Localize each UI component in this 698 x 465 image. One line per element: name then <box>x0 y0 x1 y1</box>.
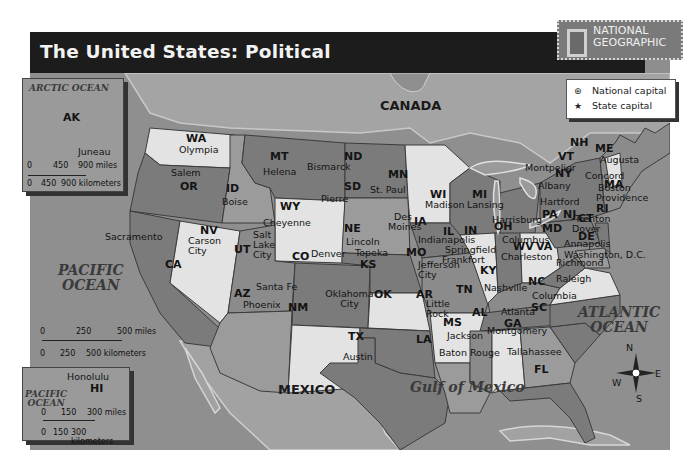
capital-label-boston: Boston <box>598 183 631 193</box>
capital-label-topeka: Topeka <box>355 248 388 258</box>
state-label-nm: NM <box>288 301 308 314</box>
capital-label-augusta: Augusta <box>600 155 639 165</box>
map-legend: ⊛National capital ★State capital <box>566 79 676 119</box>
atlantic-ocean-label: ATLANTICOCEAN <box>578 305 660 335</box>
pacific-ocean-label: PACIFICOCEAN <box>58 263 124 293</box>
state-label-tx: TX <box>348 330 364 343</box>
capital-label-olympia: Olympia <box>179 145 218 155</box>
capital-label-hartford: Hartford <box>540 197 580 207</box>
state-label-hi: HI <box>90 382 103 395</box>
state-label-ks: KS <box>360 258 376 271</box>
capital-label-indianapolis: Indianapolis <box>418 235 475 245</box>
gulf-of-mexico-label: Gulf of Mexico <box>410 380 525 395</box>
state-label-tn: TN <box>456 283 473 296</box>
capital-label-tallahassee: Tallahassee <box>507 347 562 357</box>
capital-label-columbia: Columbia <box>532 291 577 301</box>
compass-west: W <box>612 378 621 388</box>
capital-label-atlanta: Atlanta <box>501 307 535 317</box>
capital-label-des-moines: Des Moines <box>388 212 418 232</box>
legend-national-capital: ⊛National capital <box>574 85 667 96</box>
national-capital-icon: ⊛ <box>574 86 592 96</box>
compass-south: S <box>636 394 642 404</box>
capital-label-concord: Concord <box>585 171 624 181</box>
capital-label-helena: Helena <box>263 167 296 177</box>
state-label-co: CO <box>292 250 309 263</box>
state-label-ca: CA <box>165 258 182 271</box>
state-label-la: LA <box>416 333 432 346</box>
capital-label-providence: Providence <box>596 193 648 203</box>
capital-label-trenton: Trenton <box>575 214 611 224</box>
capital-label-juneau: Juneau <box>78 147 111 157</box>
capital-label-boise: Boise <box>222 197 248 207</box>
state-capital-icon: ★ <box>574 101 592 111</box>
state-label-ut: UT <box>234 243 250 256</box>
state-label-mn: MN <box>388 168 408 181</box>
alaska-inset: ARCTIC OCEAN AK Juneau 0 450 900 miles 0… <box>22 78 124 192</box>
state-label-nh: NH <box>570 136 588 149</box>
arctic-ocean-label: ARCTIC OCEAN <box>29 81 109 96</box>
capital-label-little-rock: Little Rock <box>426 299 456 319</box>
state-label-fl: FL <box>534 363 549 376</box>
capital-label-albany: Albany <box>538 181 571 191</box>
capital-label-raleigh: Raleigh <box>556 274 591 284</box>
capital-label-nashville: Nashville <box>484 283 527 293</box>
capital-label-st-paul: St. Paul <box>370 185 406 195</box>
capital-label-phoenix: Phoenix <box>243 300 281 310</box>
scale-bar-miles <box>43 420 95 421</box>
state-label-mt: MT <box>270 150 288 163</box>
capital-label-columbus: Columbus <box>502 235 549 245</box>
state-label-nc: NC <box>528 275 545 288</box>
main-scale-bar <box>42 340 122 341</box>
capital-label-washington-dc: Washington, D.C. <box>564 250 646 260</box>
capital-label-baton-rouge: Baton Rouge <box>439 348 500 358</box>
capital-label-lincoln: Lincoln <box>346 237 380 247</box>
capital-label-sacramento: Sacramento <box>105 232 162 242</box>
capital-label-dover: Dover <box>572 224 601 234</box>
state-label-ne: NE <box>344 222 361 235</box>
state-label-al: AL <box>472 306 488 319</box>
compass-north: N <box>626 343 633 353</box>
capital-label-pierre: Pierre <box>321 194 348 204</box>
capital-label-jackson: Jackson <box>447 331 483 341</box>
hawaii-inset: Honolulu HI PACIFICOCEAN 0 150 300 miles… <box>22 367 130 441</box>
state-label-ak: AK <box>63 111 80 124</box>
national-geographic-logo: NATIONAL GEOGRAPHIC <box>557 20 683 60</box>
capital-label-charleston: Charleston <box>501 252 552 262</box>
state-label-or: OR <box>180 180 198 193</box>
capital-label-salem: Salem <box>171 168 201 178</box>
state-label-wy: WY <box>280 200 300 213</box>
scale-bar-miles <box>28 175 86 176</box>
brand-line-2: GEOGRAPHIC <box>593 37 666 49</box>
capital-label-oklahoma-city: Oklahoma City <box>322 289 377 309</box>
capital-label-salt-lake-city: Salt Lake City <box>253 230 281 260</box>
state-label-pa: PA <box>542 208 558 221</box>
capital-label-honolulu: Honolulu <box>67 372 109 382</box>
state-label-sd: SD <box>344 180 361 193</box>
page-title: The United States: Political <box>40 41 331 62</box>
capital-label-austin: Austin <box>343 352 373 362</box>
capital-label-cheyenne: Cheyenne <box>263 218 311 228</box>
capital-label-madison: Madison <box>425 200 464 210</box>
capital-label-santa-fe: Santa Fe <box>256 282 297 292</box>
state-label-id: ID <box>226 182 239 195</box>
capital-label-carson-city: Carson City <box>188 236 228 256</box>
capital-label-montgomery: Montgomery <box>487 326 547 336</box>
capital-label-bismarck: Bismarck <box>307 162 351 172</box>
mexico-label: MEXICO <box>278 382 335 397</box>
state-label-ky: KY <box>480 264 497 277</box>
capital-label-frankfort: Frankfort <box>442 255 485 265</box>
pacific-ocean-inset-label: PACIFICOCEAN <box>25 390 67 408</box>
capital-label-montpelier: Montpelier <box>525 163 576 173</box>
capital-label-harrisburg: Harrisburg <box>492 215 542 225</box>
legend-state-capital: ★State capital <box>574 100 652 111</box>
compass-east: E <box>655 369 661 379</box>
state-label-mo: MO <box>406 246 426 259</box>
capital-label-lansing: Lansing <box>467 200 504 210</box>
capital-label-denver: Denver <box>311 249 346 259</box>
yellow-border-icon <box>567 29 587 57</box>
canada-label: CANADA <box>380 98 441 113</box>
capital-label-annapolis: Annapolis <box>564 239 610 249</box>
